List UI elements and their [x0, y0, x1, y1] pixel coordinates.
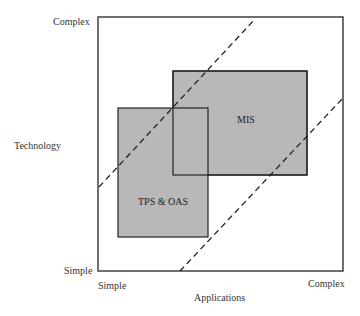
y-axis-top-label: Complex	[53, 16, 90, 28]
x-axis-title: Applications	[194, 292, 245, 304]
y-axis-title: Technology	[14, 140, 61, 152]
diagram-canvas: MIS TPS & OAS	[0, 0, 360, 316]
x-axis-right-label: Complex	[308, 278, 345, 290]
tps-oas-label: TPS & OAS	[138, 196, 188, 207]
x-axis-left-label: Simple	[98, 280, 126, 292]
y-axis-bottom-label: Simple	[64, 265, 92, 277]
tps-oas-box	[118, 108, 208, 237]
mis-label: MIS	[237, 114, 255, 125]
